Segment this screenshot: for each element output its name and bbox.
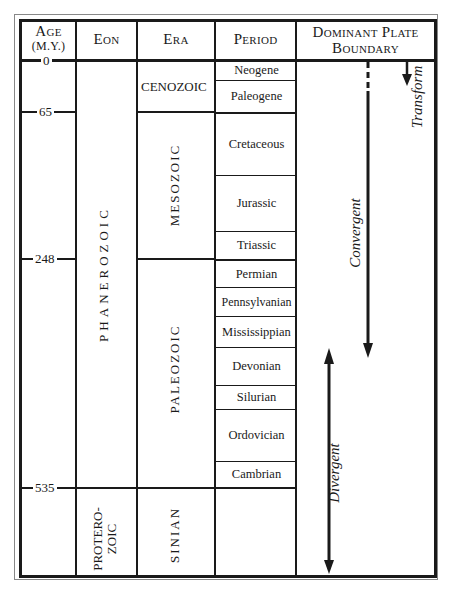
proterozoic-boundary-line	[75, 487, 296, 489]
header-age: Age (M.Y.)	[22, 24, 75, 54]
period-cretaceous: Cretaceous	[217, 114, 296, 175]
era-sinian: SINIAN	[167, 495, 185, 575]
proterozoic-line2: ZOIC	[104, 524, 119, 554]
header-period: Period	[216, 32, 295, 47]
divider-eon-era	[136, 19, 138, 578]
period-mississippian: Mississippian	[217, 317, 296, 347]
period-triassic: Triassic	[217, 232, 296, 259]
era-divider-65	[137, 111, 215, 113]
period-devonian: Devonian	[217, 348, 296, 385]
label-transform: Transform	[409, 62, 427, 132]
boundary-arrows	[296, 60, 436, 578]
boundary-label-line2: Boundary	[332, 40, 399, 56]
period-cambrian: Cambrian	[217, 462, 296, 487]
eon-phanerozoic: PHANEROZOIC	[96, 174, 116, 374]
eon-proterozoic: PROTERO- ZOIC	[91, 499, 121, 579]
header-boundary: Dominant Plate Boundary	[297, 24, 434, 56]
header-era: Era	[138, 32, 214, 47]
age-unit: (M.Y.)	[22, 39, 75, 54]
period-neogene: Neogene	[217, 61, 296, 80]
age-535: 535	[33, 481, 57, 494]
era-paleozoic: PALEOZOIC	[167, 319, 185, 419]
divider-era-period	[214, 19, 216, 578]
age-248: 248	[33, 252, 57, 265]
proterozoic-line1: PROTERO-	[90, 507, 105, 571]
age-65: 65	[37, 105, 54, 118]
boundary-label-line1: Dominant Plate	[313, 24, 419, 40]
period-paleogene: Paleogene	[217, 81, 296, 112]
header-eon: Eon	[77, 32, 136, 47]
age-0: 0	[41, 54, 52, 67]
period-pennsylvanian: Pennsylvanian	[217, 288, 296, 316]
era-mesozoic: MESOZOIC	[167, 135, 185, 235]
age-label: Age	[35, 23, 61, 39]
era-divider-248	[137, 258, 215, 260]
period-silurian: Silurian	[217, 386, 296, 409]
period-jurassic: Jurassic	[217, 176, 296, 231]
period-permian: Permian	[217, 261, 296, 287]
divider-age-eon	[75, 19, 77, 578]
era-cenozoic: CENOZOIC	[141, 79, 207, 95]
period-ordovician: Ordovician	[217, 410, 296, 461]
label-divergent: Divergent	[326, 438, 344, 508]
label-convergent: Convergent	[347, 188, 365, 278]
